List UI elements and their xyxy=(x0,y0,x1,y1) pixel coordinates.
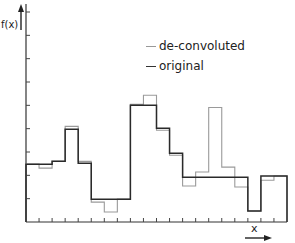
legend-label-original: original xyxy=(159,56,204,76)
legend-swatch-deconvoluted xyxy=(146,46,156,47)
legend-item-original: original xyxy=(146,56,245,76)
legend-item-deconvoluted: de-convoluted xyxy=(146,36,245,56)
legend: de-convoluted original xyxy=(146,36,245,76)
legend-label-deconvoluted: de-convoluted xyxy=(159,36,245,56)
original-step-line xyxy=(26,105,287,222)
x-axis-label: x xyxy=(251,222,258,235)
legend-swatch-original xyxy=(146,66,156,67)
y-axis-label: f(x) xyxy=(1,19,18,30)
